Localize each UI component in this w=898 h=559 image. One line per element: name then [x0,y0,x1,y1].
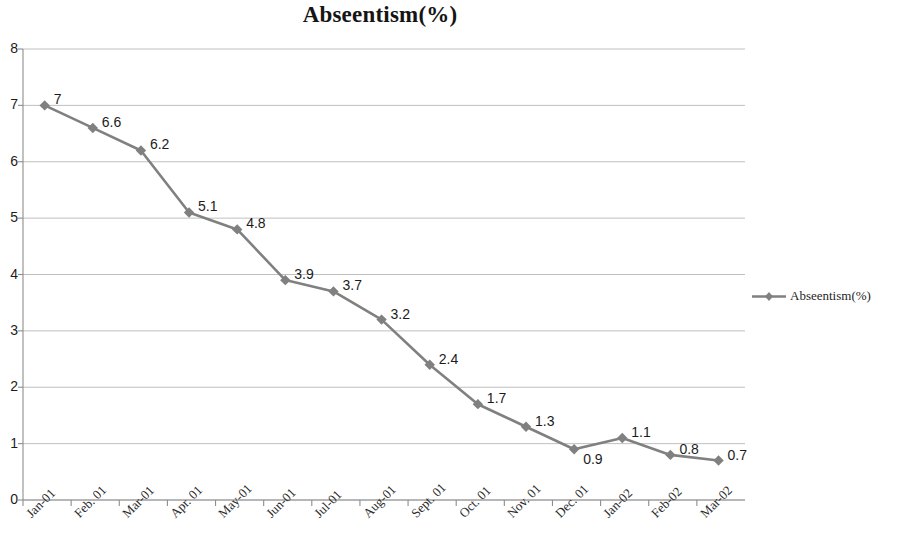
data-point-label: 1.1 [631,424,650,440]
data-point-marker [617,433,627,443]
legend-label-abseentism: Abseentism(%) [790,288,871,304]
data-point-label: 2.4 [439,351,458,367]
legend-marker-icon [752,291,786,302]
y-axis-tick-label: 4 [0,266,18,282]
data-point-label: 4.8 [246,215,265,231]
y-axis-tick-label: 7 [0,96,18,112]
data-point-label: 7 [54,91,62,107]
y-axis-tick-label: 8 [0,40,18,56]
data-point-label: 6.6 [102,114,121,130]
chart-plot-area [0,0,898,559]
chart-container: Abseentism(%) 012345678 Jan-01Feb. 01Mar… [0,0,898,559]
data-point-label: 3.7 [342,277,361,293]
data-point-marker [713,455,723,465]
data-point-marker [88,123,98,133]
chart-legend: Abseentism(%) [752,288,871,304]
data-point-marker [328,286,338,296]
data-point-label: 3.2 [391,306,410,322]
data-point-label: 5.1 [198,198,217,214]
y-axis-tick-label: 5 [0,209,18,225]
y-axis-ticks [18,49,23,500]
data-point-label: 0.8 [679,441,698,457]
data-point-label: 6.2 [150,136,169,152]
series-line-abseentism [45,105,719,460]
data-point-marker [665,450,675,460]
y-axis-tick-label: 2 [0,378,18,394]
data-point-label: 0.7 [728,447,747,463]
y-axis-tick-label: 1 [0,435,18,451]
data-point-label: 1.3 [535,413,554,429]
y-axis-tick-label: 0 [0,491,18,507]
series-markers [39,100,723,466]
data-point-marker [569,444,579,454]
data-point-marker [521,422,531,432]
data-point-marker [39,100,49,110]
data-point-label: 1.7 [487,390,506,406]
data-point-label: 0.9 [583,451,602,467]
y-axis-tick-label: 3 [0,322,18,338]
data-point-label: 3.9 [294,266,313,282]
y-axis-tick-label: 6 [0,153,18,169]
